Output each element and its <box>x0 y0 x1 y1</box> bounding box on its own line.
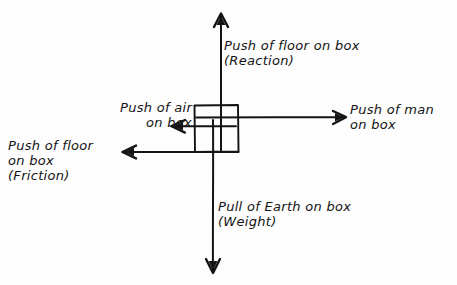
label-air-resistance-line2: on box <box>120 115 192 130</box>
label-friction: Push of floor on box (Friction) <box>8 138 93 183</box>
arrow-weight <box>206 120 220 273</box>
label-friction-line3: (Friction) <box>8 168 93 183</box>
label-weight: Pull of Earth on box (Weight) <box>218 199 351 229</box>
arrow-applied-force <box>196 111 346 124</box>
arrow-reaction <box>214 14 228 152</box>
label-reaction-line2: (Reaction) <box>224 53 360 68</box>
label-friction-line2: on box <box>8 153 93 168</box>
label-applied-force: Push of man on box <box>350 102 434 132</box>
label-applied-force-line2: on box <box>350 117 434 132</box>
label-weight-line1: Pull of Earth on box <box>218 199 351 214</box>
label-weight-line2: (Weight) <box>218 214 351 229</box>
label-reaction: Push of floor on box (Reaction) <box>224 38 360 68</box>
label-reaction-line1: Push of floor on box <box>224 38 360 53</box>
label-air-resistance: Push of air on box <box>120 100 192 130</box>
label-applied-force-line1: Push of man <box>350 102 434 117</box>
label-friction-line1: Push of floor <box>8 138 93 153</box>
diagram-canvas: Push of floor on box (Reaction) Push of … <box>0 0 457 285</box>
label-air-resistance-line1: Push of air <box>120 100 192 115</box>
box-shape <box>195 105 239 152</box>
